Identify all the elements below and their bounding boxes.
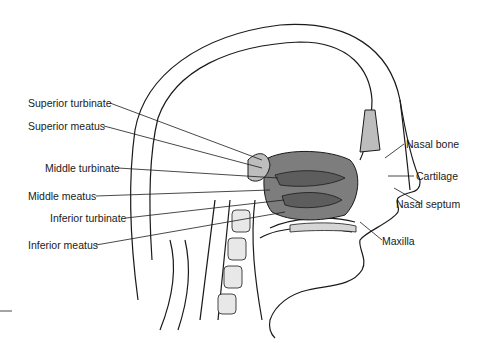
label-inferior-meatus: Inferior meatus [28,239,98,251]
label-cartilage: Cartilage [416,170,458,182]
label-nasal-bone: Nasal bone [406,138,459,150]
label-middle-turbinate: Middle turbinate [45,162,120,174]
nose-profile [397,100,420,212]
label-middle-meatus: Middle meatus [28,190,96,202]
maxilla-bone [290,223,356,232]
frontal-bone-hatched [360,110,380,152]
vertebra [224,266,242,288]
leader-nasal-bone [385,144,404,158]
leader-middle-meatus [96,190,270,196]
label-inferior-turbinate: Inferior turbinate [50,212,126,224]
pharynx-wall [253,200,262,320]
label-nasal-septum: Nasal septum [396,198,460,210]
label-maxilla: Maxilla [382,235,415,247]
leader-superior-meatus [104,126,262,168]
label-superior-turbinate: Superior turbinate [28,97,111,109]
head-sagittal-illustration [0,0,478,360]
label-superior-meatus: Superior meatus [28,120,105,132]
vertebra [218,294,236,314]
vertebra [228,238,246,260]
